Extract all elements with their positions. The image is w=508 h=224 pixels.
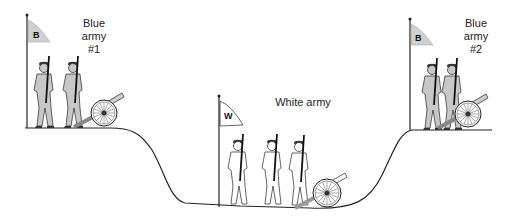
soldier-icon — [289, 135, 308, 205]
label-line: #2 — [456, 43, 496, 56]
blue-army-1-label: Blue army #1 — [74, 17, 114, 56]
blue-army-2-label: Blue army #2 — [456, 17, 496, 56]
flag-letter: B — [33, 30, 40, 40]
soldier-icon — [262, 134, 281, 204]
label-line: Blue — [456, 17, 496, 30]
label-line: army — [456, 30, 496, 43]
flag-letter: B — [415, 33, 422, 43]
label-line: army — [74, 30, 114, 43]
white-army: W — [218, 95, 348, 209]
label-line: Blue — [74, 17, 114, 30]
label-line: #1 — [74, 43, 114, 56]
cannon-icon — [74, 93, 124, 127]
white-army-label: White army — [268, 96, 338, 109]
soldier-icon — [34, 56, 54, 128]
soldier-icon — [63, 56, 83, 128]
terrain-line — [25, 128, 492, 208]
label-line: White army — [268, 96, 338, 109]
flag-letter: W — [224, 111, 233, 121]
soldier-icon — [228, 134, 247, 204]
soldier-icon — [422, 58, 442, 130]
